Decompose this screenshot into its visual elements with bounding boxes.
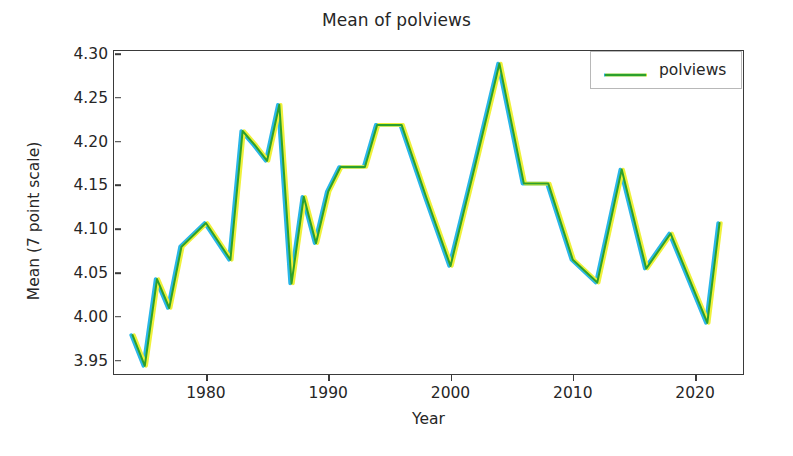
y-tick-mark xyxy=(115,185,121,187)
x-axis-label: Year xyxy=(113,410,744,428)
x-tick-label: 2000 xyxy=(411,384,491,402)
plot-area xyxy=(113,50,744,375)
y-tick-mark xyxy=(115,272,121,274)
chart-legend: polviews xyxy=(590,51,742,89)
x-tick-label: 1980 xyxy=(166,384,246,402)
x-tick-label: 2020 xyxy=(655,384,735,402)
y-tick-mark xyxy=(115,228,121,230)
chart-title: Mean of polviews xyxy=(0,10,793,30)
x-tick-mark xyxy=(206,375,208,381)
x-tick-mark xyxy=(451,375,453,381)
y-tick-mark xyxy=(115,316,121,318)
y-tick-mark xyxy=(115,360,121,362)
legend-label-polviews: polviews xyxy=(659,61,726,79)
y-tick-mark xyxy=(115,53,121,55)
y-tick-label: 3.95 xyxy=(16,352,108,370)
y-tick-label: 4.25 xyxy=(16,89,108,107)
x-tick-label: 2010 xyxy=(533,384,613,402)
y-axis-label: Mean (7 point scale) xyxy=(25,121,43,321)
x-tick-mark xyxy=(328,375,330,381)
y-tick-mark xyxy=(115,141,121,143)
y-axis-ticks: 3.954.004.054.104.154.204.254.30 xyxy=(8,0,108,456)
data-series-group xyxy=(131,64,721,366)
legend-line-swatch xyxy=(603,65,647,75)
y-tick-label: 4.30 xyxy=(16,45,108,63)
series-line-polviews xyxy=(131,64,718,366)
y-tick-mark xyxy=(115,97,121,99)
chart-figure: Mean of polviews 3.954.004.054.104.154.2… xyxy=(0,0,793,456)
x-tick-mark xyxy=(695,375,697,381)
x-tick-mark xyxy=(573,375,575,381)
x-tick-label: 1990 xyxy=(288,384,368,402)
